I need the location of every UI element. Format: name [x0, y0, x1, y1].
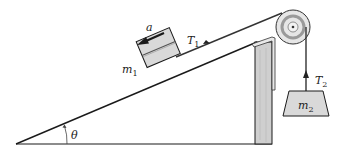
tension2-arrowhead	[303, 70, 309, 78]
support-post	[255, 42, 272, 144]
angle-arc	[65, 126, 68, 144]
angle-arrowhead	[63, 125, 67, 129]
incline-pulley-diagram: θ T2 m2 m1 a T1	[0, 0, 340, 154]
tension2-label: T2	[315, 74, 327, 89]
acceleration-label: a	[146, 21, 153, 34]
tension1-arrowhead	[203, 40, 210, 44]
tension1-label: T1	[187, 34, 199, 49]
mass1-block	[136, 28, 180, 68]
pulley-axle	[292, 26, 295, 29]
angle-label: θ	[71, 129, 78, 142]
incline-surface	[16, 42, 257, 144]
mass1-label: m1	[122, 63, 138, 78]
